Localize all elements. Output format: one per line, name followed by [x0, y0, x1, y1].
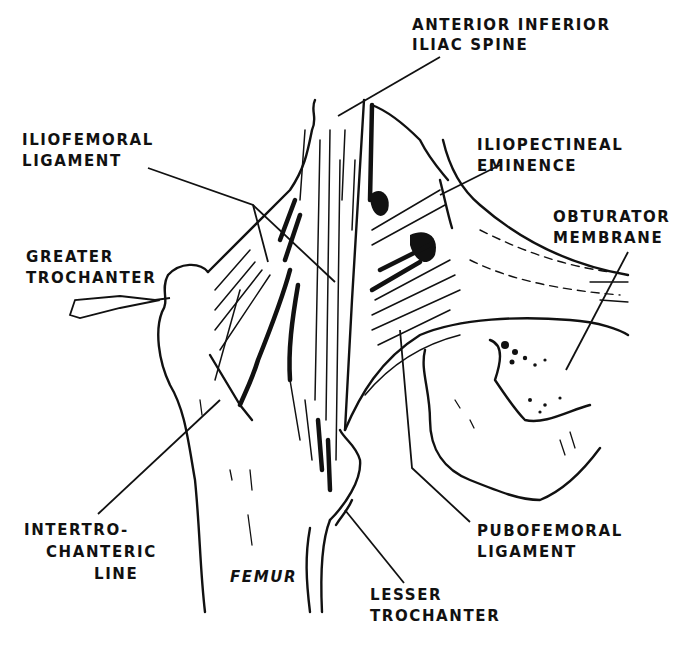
anterior-inferior-iliac-spine-leader-line — [338, 57, 440, 116]
obturator-membrane-leader-line — [566, 252, 628, 370]
label-line: LESSER — [370, 586, 442, 604]
capsule-iliofemoral — [208, 100, 372, 490]
label-iliofemoral-ligament: ILIOFEMORALLIGAMENT — [22, 131, 154, 170]
acetabulum-pubis — [424, 340, 600, 500]
label-greater-trochanter: GREATERTROCHANTER — [26, 248, 156, 287]
label-lesser-trochanter: LESSERTROCHANTER — [370, 586, 500, 625]
iliofemoral-ligament-leader-line-2 — [253, 205, 335, 282]
label-line: ILIOPECTINEAL — [477, 136, 623, 154]
label-line: TROCHANTER — [370, 607, 500, 625]
anatomical-drawing: ANTERIOR INFERIORILIAC SPINEILIOFEMORALL… — [0, 0, 694, 646]
iliofemoral-ligament-leader-line — [148, 168, 268, 262]
label-line: LINE — [94, 565, 138, 583]
femur-detail-marks — [200, 400, 252, 545]
greater-trochanter-leader-line — [70, 296, 170, 318]
label-line: LIGAMENT — [22, 152, 122, 170]
femur-outline — [158, 265, 360, 612]
label-line: INTERTRO- — [24, 521, 129, 539]
label-line: GREATER — [26, 248, 114, 266]
label-line: ANTERIOR INFERIOR — [412, 16, 611, 34]
label-line: MEMBRANE — [553, 229, 663, 247]
hip-ligament-diagram: ANTERIOR INFERIORILIAC SPINEILIOFEMORALL… — [0, 0, 694, 646]
label-line: CHANTERIC — [46, 543, 157, 561]
label-line: ILIAC SPINE — [412, 36, 528, 54]
label-anterior-inferior-iliac-spine: ANTERIOR INFERIORILIAC SPINE — [412, 16, 611, 54]
label-line: TROCHANTER — [26, 269, 156, 287]
label-line: FEMUR — [230, 568, 297, 586]
label-line: OBTURATOR — [553, 208, 671, 226]
lesser-trochanter-leader-line — [345, 510, 404, 583]
intertrochanteric-line-leader-line — [98, 400, 220, 514]
label-line: LIGAMENT — [477, 543, 577, 561]
label-femur: FEMUR — [230, 568, 297, 586]
pubofemoral-ligament-leader-line — [400, 330, 470, 522]
label-obturator-membrane: OBTURATORMEMBRANE — [553, 208, 671, 247]
label-intertrochanteric-line: INTERTRO-CHANTERICLINE — [24, 521, 157, 583]
label-iliopectineal-eminence: ILIOPECTINEALEMINENCE — [477, 136, 623, 175]
label-line: EMINENCE — [477, 157, 577, 175]
label-line: ILIOFEMORAL — [22, 131, 154, 149]
label-line: PUBOFEMORAL — [477, 522, 623, 540]
label-pubofemoral-ligament: PUBOFEMORALLIGAMENT — [477, 522, 623, 561]
